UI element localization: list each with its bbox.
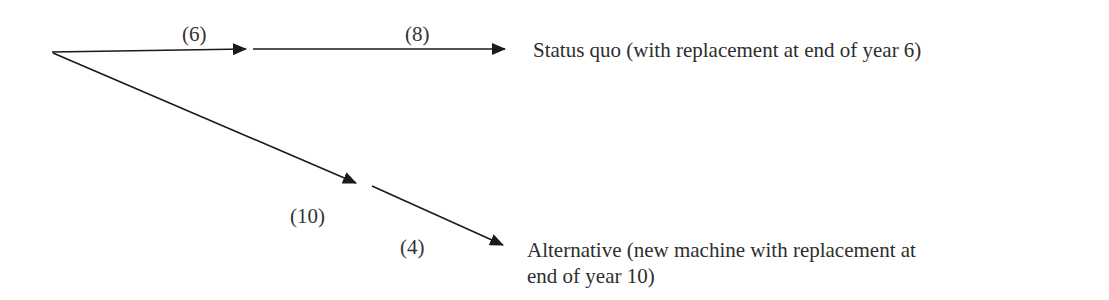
- status-quo-segment-1-arrow: [52, 49, 246, 52]
- status-quo-outcome: Status quo (with replacement at end of y…: [533, 37, 921, 63]
- segment-label-10: (10): [290, 206, 325, 227]
- segment-label-6: (6): [182, 24, 207, 45]
- alternative-segment-2-arrow: [372, 186, 503, 245]
- segment-label-4: (4): [400, 237, 425, 258]
- alternative-outcome: Alternative (new machine with replacemen…: [527, 237, 916, 289]
- alternative-outcome-line-2: end of year 10): [527, 263, 916, 289]
- alternative-outcome-line-1: Alternative (new machine with replacemen…: [527, 237, 916, 263]
- segment-label-8: (8): [405, 24, 430, 45]
- alternative-segment-1-arrow: [53, 53, 356, 183]
